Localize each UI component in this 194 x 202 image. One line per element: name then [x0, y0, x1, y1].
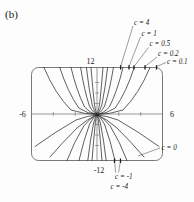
x-left-axis-label: -6: [19, 110, 26, 119]
plot-area: 12 -12 -6 6 c = 4 c = 1 c = 0.5 c = 0.2 …: [0, 0, 194, 202]
curve-label-c-0: c = 0: [162, 144, 178, 152]
curve-label-c-1: c = 1: [142, 30, 157, 38]
leader-line-c-zero: [138, 148, 160, 156]
curve-label-c-0-5: c = 0.5: [150, 40, 171, 48]
curve-label-c-4: c = 4: [134, 19, 150, 27]
y-bottom-axis-label: -12: [94, 166, 105, 175]
curve-label-c-0-2: c = 0.2: [158, 50, 179, 58]
curve-label-c-0-1: c = 0.1: [167, 58, 188, 66]
figure-panel: (b): [0, 0, 194, 202]
curve-label-c-minus-1: c = -1: [115, 173, 133, 181]
x-right-axis-label: 6: [170, 110, 174, 119]
curve-label-c-minus-4: c = -4: [111, 183, 129, 191]
y-top-axis-label: 12: [87, 57, 95, 66]
leader-lines-bottom: [115, 161, 121, 173]
